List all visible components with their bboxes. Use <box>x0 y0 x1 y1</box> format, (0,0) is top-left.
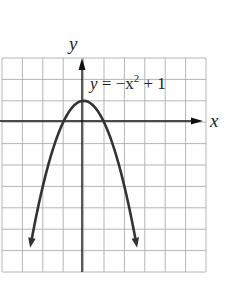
x-axis-label: x <box>209 110 219 131</box>
y-axis-arrow-icon <box>79 58 86 70</box>
curve-arrow-left-icon <box>28 237 35 248</box>
y-axis-label: y <box>67 33 78 54</box>
parabola-graph: y x y = −x2 + 1 <box>0 0 237 283</box>
x-axis-arrow-icon <box>191 118 203 125</box>
curve-arrow-right-icon <box>132 237 139 248</box>
equation-label: y = −x2 + 1 <box>88 72 166 93</box>
